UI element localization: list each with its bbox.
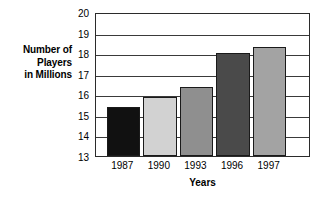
y-tick-label-17: 17: [61, 69, 89, 80]
x-tick-label-1996: 1996: [221, 160, 243, 171]
x-tick-label-1997: 1997: [258, 160, 280, 171]
y-tick-label-18: 18: [61, 49, 89, 60]
bar-1996: [216, 53, 250, 156]
y-axis-tick-labels: 1314151617181920: [0, 0, 93, 200]
bar-1990: [143, 97, 177, 156]
x-tick-label-1987: 1987: [111, 160, 133, 171]
x-axis-title: Years: [95, 177, 310, 188]
bar-1997: [253, 47, 287, 156]
y-tick-label-14: 14: [61, 131, 89, 142]
y-tick-label-16: 16: [61, 90, 89, 101]
bar-chart-figure: Number of Players in Millions 1314151617…: [0, 0, 320, 200]
y-tick-label-13: 13: [61, 152, 89, 163]
y-tick-label-15: 15: [61, 110, 89, 121]
bar-1993: [180, 87, 214, 156]
plot-area: [95, 13, 310, 157]
bar-1987: [107, 107, 141, 156]
bars-group: [96, 14, 309, 156]
y-tick-label-19: 19: [61, 28, 89, 39]
y-tick-label-20: 20: [61, 8, 89, 19]
x-tick-label-1990: 1990: [148, 160, 170, 171]
x-axis-tick-labels: 19871990199319961997: [95, 160, 310, 176]
x-tick-label-1993: 1993: [184, 160, 206, 171]
